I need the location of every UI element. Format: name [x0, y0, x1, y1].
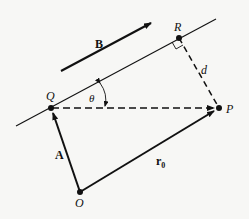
vector-r0 [80, 111, 214, 192]
label-B: B [95, 38, 103, 50]
point-O [77, 189, 83, 195]
theta-arc [100, 83, 106, 106]
point-R [176, 35, 182, 41]
line-QR [16, 19, 216, 126]
label-R: R [174, 21, 181, 33]
label-P: P [226, 103, 233, 115]
point-Q [48, 105, 54, 111]
label-theta: θ [89, 93, 94, 104]
label-d: d [201, 64, 207, 76]
dashed-RP-distance [179, 38, 219, 108]
diagram-graphics [0, 0, 249, 219]
vector-B [61, 23, 151, 71]
label-Q: Q [46, 90, 55, 102]
label-r0-subscript: 0 [161, 161, 165, 170]
point-P [216, 105, 222, 111]
label-A: A [55, 149, 64, 161]
label-r0: r0 [156, 155, 165, 170]
label-O: O [75, 197, 84, 209]
diagram-canvas: B Q R P O d θ A r0 [0, 0, 249, 219]
